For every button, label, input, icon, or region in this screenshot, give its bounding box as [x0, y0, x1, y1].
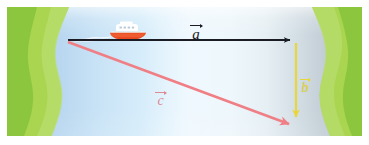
vector-a-label: a: [190, 25, 202, 42]
vector-a-letter: a: [190, 27, 202, 42]
vector-arrows: [7, 7, 362, 136]
vector-b-overbar: [300, 79, 310, 80]
vector-diagram-figure: a b c: [0, 0, 369, 145]
vector-b-label: b: [300, 79, 310, 95]
vector-c-label: c: [155, 92, 166, 108]
vector-c-arrow: [68, 42, 289, 124]
vector-b-letter: b: [300, 81, 310, 95]
vector-c-letter: c: [155, 94, 166, 108]
river-scene: a b c: [7, 7, 362, 136]
vector-a-overbar: [190, 25, 202, 26]
vector-c-overbar: [155, 92, 166, 93]
